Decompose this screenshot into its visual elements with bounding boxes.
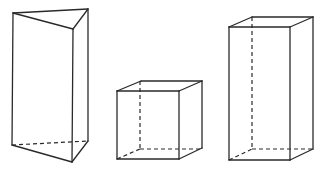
triangular-prism [12, 9, 88, 162]
hidden-edge [12, 141, 88, 145]
visible-edge [13, 9, 88, 13]
visible-edge [72, 29, 73, 162]
visible-edge [229, 17, 252, 27]
visible-edge [179, 81, 202, 91]
hidden-edge [229, 149, 252, 160]
visible-edge [117, 81, 141, 91]
visible-edge [12, 145, 72, 162]
cube [117, 81, 202, 159]
visible-edge [179, 148, 202, 159]
hidden-edge [117, 149, 140, 159]
visible-edge [73, 9, 88, 29]
visible-edge [290, 149, 313, 160]
rectangular-prism [229, 17, 313, 160]
visible-edge [12, 13, 13, 145]
visible-edge [72, 141, 88, 162]
visible-edge [13, 13, 73, 29]
visible-edge [290, 17, 313, 27]
solids-figure [0, 0, 323, 169]
